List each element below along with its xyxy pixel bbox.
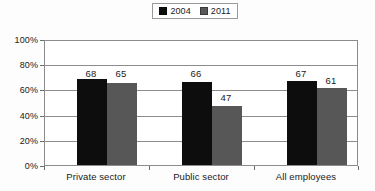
gray-square-swatch-icon xyxy=(200,7,208,15)
y-axis-label-40: 40% xyxy=(2,111,38,120)
legend-label-2011: 2011 xyxy=(211,7,231,16)
data-label-private-sector-2011: 65 xyxy=(116,69,127,79)
bar-all-employees-2011 xyxy=(317,88,347,165)
bar-private-sector-2011 xyxy=(107,83,137,165)
bar-chart: 2004 2011 100% 80% 60% 40% 20% 0% xyxy=(0,0,375,191)
legend-label-2004: 2004 xyxy=(170,7,190,16)
y-axis-label-100: 100% xyxy=(2,36,38,45)
x-axis-tick-2 xyxy=(254,166,255,170)
data-label-all-employees-2011: 61 xyxy=(326,76,337,86)
bar-private-sector-2004 xyxy=(77,79,107,165)
y-axis-label-0: 0% xyxy=(2,162,38,171)
data-label-public-sector-2004: 66 xyxy=(191,69,202,79)
x-axis-tick-0 xyxy=(44,166,45,170)
bar-public-sector-2004 xyxy=(182,82,212,165)
bar-public-sector-2011 xyxy=(212,106,242,165)
data-label-private-sector-2004: 68 xyxy=(86,69,97,79)
legend-entry-2011: 2011 xyxy=(200,7,231,16)
x-axis-tick-3 xyxy=(358,166,359,170)
data-label-public-sector-2011: 47 xyxy=(221,93,232,103)
legend-entry-2004: 2004 xyxy=(159,7,190,16)
y-axis-label-80: 80% xyxy=(2,61,38,70)
x-axis-label-public-sector: Public sector xyxy=(173,172,229,182)
x-axis-tick-1 xyxy=(149,166,150,170)
bar-all-employees-2004 xyxy=(287,81,317,165)
y-axis-label-60: 60% xyxy=(2,86,38,95)
x-axis-label-all-employees: All employees xyxy=(276,172,336,182)
gridline-80 xyxy=(45,65,357,66)
chart-legend: 2004 2011 xyxy=(152,3,238,19)
y-axis-labels: 100% 80% 60% 40% 20% 0% xyxy=(0,0,38,191)
plot-area xyxy=(44,40,358,166)
black-square-swatch-icon xyxy=(159,7,167,15)
data-label-all-employees-2004: 67 xyxy=(296,69,307,79)
y-axis-label-20: 20% xyxy=(2,136,38,145)
x-axis-label-private-sector: Private sector xyxy=(66,172,125,182)
